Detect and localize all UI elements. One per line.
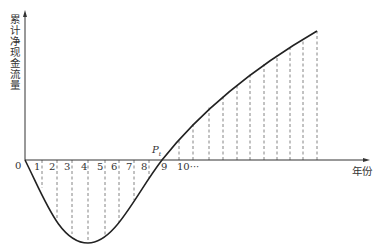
tick-label: 8 <box>141 161 147 172</box>
tick-label: 7 <box>126 161 132 172</box>
tick-label: 9 <box>161 161 167 172</box>
x-axis-arrow-icon <box>363 158 370 162</box>
tick-label: 3 <box>64 161 70 172</box>
tick-label: 4 <box>81 161 87 172</box>
cumulative-cash-flow-curve <box>25 31 317 243</box>
cash-flow-diagram <box>0 0 381 251</box>
y-axis-arrow-icon <box>23 10 27 17</box>
tick-label: 2 <box>49 161 55 172</box>
axes <box>25 14 366 160</box>
payback-point-label: Pt <box>152 144 161 157</box>
point-label-main: P <box>152 144 159 155</box>
dashed-year-lines <box>42 31 317 242</box>
origin-label: 0 <box>15 160 21 171</box>
tick-label: 5 <box>97 161 103 172</box>
y-axis-label: 累计净现金流量 <box>5 14 19 91</box>
tick-label: 1 <box>34 161 40 172</box>
tick-label: 10··· <box>177 161 199 172</box>
x-axis-label: 年份 <box>352 163 372 178</box>
point-label-subscript: t <box>159 150 161 157</box>
tick-label: 6 <box>111 161 117 172</box>
